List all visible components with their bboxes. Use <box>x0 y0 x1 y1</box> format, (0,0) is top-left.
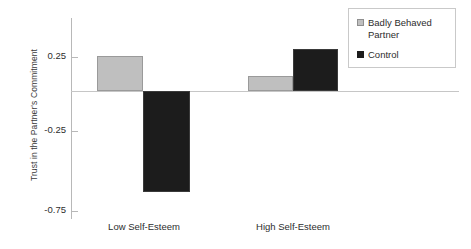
y-tick-label: -0.25 <box>6 124 66 135</box>
legend: Badly Behaved Partner Control <box>348 8 456 68</box>
legend-swatch-icon <box>357 19 364 26</box>
y-tick-label: -0.75 <box>6 204 66 215</box>
category-label-low-self-esteem: Low Self-Esteem <box>64 221 224 232</box>
category-label-high-self-esteem: High Self-Esteem <box>213 221 373 232</box>
zero-baseline <box>71 91 459 92</box>
bar-high-self-esteem-badly-behaved-partner <box>248 76 293 91</box>
y-tick-mark <box>71 131 78 132</box>
y-axis-line <box>71 18 72 219</box>
y-tick-mark <box>71 57 78 58</box>
legend-label: Badly Behaved Partner <box>368 17 448 40</box>
y-axis-title: Trust in the Partner's Commitment <box>29 15 39 215</box>
bar-low-self-esteem-control <box>143 91 190 192</box>
legend-label: Control <box>368 49 399 61</box>
legend-item-control: Control <box>357 49 448 61</box>
bar-low-self-esteem-badly-behaved-partner <box>97 56 143 91</box>
legend-item-badly-behaved-partner: Badly Behaved Partner <box>357 17 448 40</box>
bar-chart: Trust in the Partner's Commitment 0.25 -… <box>0 0 471 249</box>
y-tick-mark <box>71 211 78 212</box>
legend-swatch-icon <box>357 51 364 58</box>
y-tick-label: 0.25 <box>6 50 66 61</box>
bar-high-self-esteem-control <box>293 49 338 91</box>
